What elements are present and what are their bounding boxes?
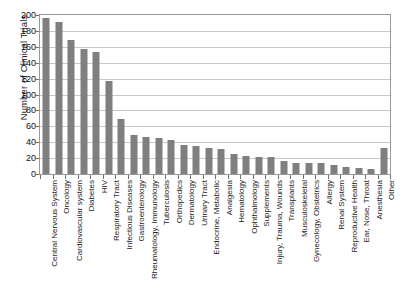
bar xyxy=(230,154,237,174)
x-axis-tick-mark xyxy=(115,175,116,179)
bar-slot xyxy=(128,15,141,174)
x-axis-label-slot: Injury, Trauma, Wounds xyxy=(265,180,278,302)
x-axis-tick-mark xyxy=(328,175,329,179)
bar xyxy=(318,163,325,174)
bar-slot xyxy=(90,15,103,174)
x-axis-tick-mark xyxy=(128,175,129,179)
y-axis-tick-label: 0 xyxy=(2,169,36,179)
y-axis-tick-label: 200 xyxy=(2,10,36,20)
bar-slot xyxy=(303,15,316,174)
x-axis-tick-mark xyxy=(228,175,229,179)
x-axis-label-slot: Infectious Diseases xyxy=(115,180,128,302)
x-axis-label-slot: Musculoskeletal xyxy=(290,180,303,302)
bar xyxy=(118,119,125,174)
x-axis-tick-marks xyxy=(40,175,390,179)
x-axis-tick-mark xyxy=(253,175,254,179)
bar xyxy=(255,157,262,174)
bar xyxy=(55,22,62,174)
x-axis-label-slot: Analgesia xyxy=(215,180,228,302)
bar-slot xyxy=(153,15,166,174)
bar-slot xyxy=(240,15,253,174)
x-axis-tick-mark xyxy=(340,175,341,179)
x-axis-label-slot: Respiratory Tract xyxy=(103,180,116,302)
y-axis-tick-label: 120 xyxy=(2,74,36,84)
x-axis-label-slot: Gastroenterology xyxy=(128,180,141,302)
x-axis-label-slot: Transplants xyxy=(278,180,291,302)
x-axis-tick-mark xyxy=(65,175,66,179)
x-axis-label-slot: Other xyxy=(378,180,391,302)
bar xyxy=(68,40,75,174)
y-axis-tick-label: 140 xyxy=(2,58,36,68)
bar xyxy=(293,163,300,174)
x-axis-label-slot: Gynecology, Obstetrics xyxy=(303,180,316,302)
x-axis-label-slot: Orthopedics xyxy=(165,180,178,302)
x-axis-tick-mark xyxy=(40,175,41,179)
x-axis-tick-mark xyxy=(165,175,166,179)
x-axis-tick-mark xyxy=(140,175,141,179)
x-axis-label-slot: Ophthalmology xyxy=(240,180,253,302)
x-axis-category-label: Other xyxy=(387,180,396,200)
x-axis-label-slot: Central Nervous System xyxy=(40,180,53,302)
bar-slot xyxy=(215,15,228,174)
x-axis-tick-mark xyxy=(203,175,204,179)
x-axis-tick-mark xyxy=(240,175,241,179)
bar xyxy=(80,49,87,174)
x-axis-label-slot: Urinary Tract xyxy=(190,180,203,302)
x-axis-tick-mark xyxy=(78,175,79,179)
bar xyxy=(168,140,175,174)
bar xyxy=(218,149,225,174)
bar xyxy=(243,156,250,174)
bar-slot xyxy=(65,15,78,174)
bar xyxy=(280,161,287,175)
x-axis-label-slot: Supplements xyxy=(253,180,266,302)
x-axis-label-slot: Allergy xyxy=(315,180,328,302)
x-axis-label-slot: Oncology xyxy=(53,180,66,302)
bar xyxy=(380,148,387,174)
bar-slot xyxy=(115,15,128,174)
y-axis-tick-label: 160 xyxy=(2,42,36,52)
x-axis-label-slot: Diabetes xyxy=(78,180,91,302)
x-axis-label-slot: HIV xyxy=(90,180,103,302)
bar xyxy=(268,157,275,174)
bar-slot xyxy=(265,15,278,174)
bar-series xyxy=(40,15,390,174)
bar xyxy=(43,18,50,174)
bar xyxy=(105,81,112,174)
bar xyxy=(155,138,162,174)
x-axis-label-slot: Rheumatology, Immunology xyxy=(140,180,153,302)
bar-slot xyxy=(203,15,216,174)
bar-slot xyxy=(353,15,366,174)
bar-slot xyxy=(40,15,53,174)
x-axis-tick-mark xyxy=(265,175,266,179)
bar xyxy=(130,135,137,174)
bar-slot xyxy=(165,15,178,174)
bar xyxy=(193,146,200,174)
bar xyxy=(305,163,312,174)
y-axis-tick-label: 40 xyxy=(2,137,36,147)
bar-slot xyxy=(78,15,91,174)
bar-slot xyxy=(315,15,328,174)
x-axis-label-slot: Hematology xyxy=(228,180,241,302)
bar-slot xyxy=(328,15,341,174)
bar-slot xyxy=(140,15,153,174)
bar xyxy=(205,148,212,174)
bar-slot xyxy=(253,15,266,174)
x-axis-label-slot: Endocrine, Metabolic xyxy=(203,180,216,302)
bar-slot xyxy=(290,15,303,174)
x-axis-tick-mark xyxy=(303,175,304,179)
x-axis-tick-mark xyxy=(378,175,379,179)
clinical-trials-bar-chart: Number of Clinical Trials 20018016014012… xyxy=(0,0,409,302)
x-axis-tick-mark xyxy=(390,175,391,179)
x-axis-label-slot: Cardiovascular system xyxy=(65,180,78,302)
bar-slot xyxy=(228,15,241,174)
x-axis-label-slot: Renal System xyxy=(328,180,341,302)
bar-slot xyxy=(178,15,191,174)
y-axis-tick-labels: 200180160140120100806040200 xyxy=(0,14,36,175)
x-axis-tick-mark xyxy=(365,175,366,179)
bar xyxy=(368,169,375,174)
bar-slot xyxy=(103,15,116,174)
bar-slot xyxy=(53,15,66,174)
bar-slot xyxy=(365,15,378,174)
x-axis-tick-mark xyxy=(178,175,179,179)
x-axis-tick-mark xyxy=(278,175,279,179)
